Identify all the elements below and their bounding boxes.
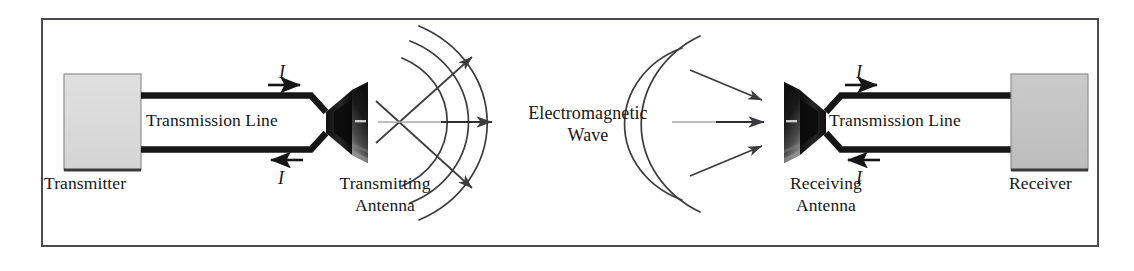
transmit-current-symbol-bottom: I: [278, 168, 284, 188]
receiving-antenna-label-line2: Antenna: [756, 196, 896, 216]
receiver-label: Receiver: [1009, 174, 1072, 194]
transmitting-antenna-label-line2: Antenna: [305, 196, 465, 216]
receive-current-symbol-top: I: [856, 62, 862, 82]
electromagnetic-wave-label-line1: Electromagnetic: [497, 103, 679, 123]
receiving-antenna-label-line1: Receiving: [756, 174, 896, 194]
transmitting-antenna-label-line1: Transmitting: [305, 174, 465, 194]
receive-transmission-line-label: Transmission Line: [829, 111, 961, 131]
transmit-current-symbol-top: I: [279, 62, 285, 82]
electromagnetic-wave-label-line2: Wave: [497, 125, 679, 145]
transmitter-label: Transmitter: [44, 174, 126, 194]
transmit-transmission-line-label: Transmission Line: [146, 111, 278, 131]
antenna-link-figure: Transmitter Transmission Line I I Transm…: [0, 0, 1134, 271]
receive-current-symbol-bottom: I: [856, 168, 862, 188]
